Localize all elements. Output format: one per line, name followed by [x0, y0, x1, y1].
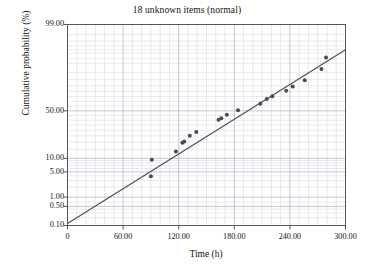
data-point: [270, 94, 274, 98]
data-point: [219, 116, 223, 120]
probability-plot-chart: 18 unknown items (normal) Cumulative pro…: [0, 0, 374, 270]
data-point: [265, 97, 269, 101]
data-point: [236, 108, 240, 112]
axis-tick-marks: [64, 25, 346, 230]
data-point: [182, 140, 186, 144]
plot-area: [0, 0, 374, 270]
data-point: [319, 67, 323, 71]
data-point: [150, 158, 154, 162]
data-point: [284, 89, 288, 93]
data-point: [291, 84, 295, 88]
data-point: [303, 78, 307, 82]
data-point: [149, 174, 153, 178]
data-point: [174, 150, 178, 154]
data-point: [324, 55, 328, 59]
data-point: [188, 134, 192, 138]
data-point: [258, 102, 262, 106]
data-point: [225, 113, 229, 117]
data-point: [194, 130, 198, 134]
